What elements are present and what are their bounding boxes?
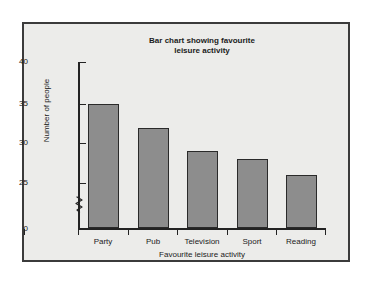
y-tick-label-35: 35 bbox=[0, 99, 28, 108]
chart-figure-frame: Bar chart showing favourite leisure acti… bbox=[22, 22, 350, 262]
y-tick-label-30: 30 bbox=[0, 138, 28, 147]
bar-party bbox=[88, 104, 119, 228]
bar-television bbox=[187, 151, 218, 228]
x-axis-title: Favourite leisure activity bbox=[78, 250, 326, 259]
y-tick-mark-30 bbox=[79, 143, 86, 144]
bar-sport bbox=[237, 159, 268, 228]
x-axis-line bbox=[78, 228, 326, 230]
x-tick-mark-1b bbox=[128, 229, 129, 235]
x-tick-mark-5 bbox=[325, 229, 326, 235]
y-tick-label-40: 40 bbox=[0, 57, 28, 66]
x-tick-mark-0 bbox=[78, 229, 79, 235]
bar-reading bbox=[286, 175, 317, 228]
x-tick-label-reading: Reading bbox=[270, 237, 332, 246]
x-tick-mark-2 bbox=[177, 229, 178, 235]
x-tick-mark-1 bbox=[24, 229, 25, 235]
axis-break-squiggle-icon bbox=[73, 196, 85, 213]
x-tick-mark-3 bbox=[227, 229, 228, 235]
y-tick-mark-25 bbox=[79, 183, 86, 184]
plot-area: Bar chart showing favourite leisure acti… bbox=[24, 24, 348, 260]
y-tick-mark-35 bbox=[79, 104, 86, 105]
bar-pub bbox=[138, 128, 169, 228]
y-tick-label-25: 25 bbox=[0, 178, 28, 187]
x-tick-mark-4 bbox=[276, 229, 277, 235]
y-axis-title: Number of people bbox=[42, 51, 51, 171]
chart-title: Bar chart showing favourite leisure acti… bbox=[102, 36, 302, 56]
y-tick-mark-40 bbox=[79, 62, 86, 63]
